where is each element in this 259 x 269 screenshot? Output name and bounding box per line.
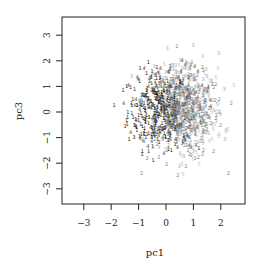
data-point: 5 [232,82,235,88]
data-point: 2 [141,136,144,142]
data-point: 2 [201,64,204,70]
data-point: 3 [130,73,133,79]
data-point: 5 [163,61,166,67]
data-point: 3 [210,77,213,83]
data-point: 1 [170,147,173,153]
data-point: 5 [182,171,185,177]
data-point: 3 [169,90,172,96]
data-point: 3 [223,136,226,142]
data-point: 3 [166,45,169,51]
data-point: 1 [130,110,133,116]
data-point: 4 [168,131,171,137]
data-point: 1 [143,116,146,122]
data-point: 5 [216,108,219,114]
data-point: 3 [223,86,226,92]
data-point: 1 [183,101,186,107]
data-point: 1 [164,124,167,130]
data-point: 4 [150,105,153,111]
y-tick-label: 1 [42,84,52,90]
data-point: 2 [227,170,230,176]
data-point: 2 [187,147,190,153]
data-point: 3 [172,66,175,72]
data-point: 5 [171,99,174,105]
data-point: 2 [212,148,215,154]
x-tick-label: −1 [132,218,145,228]
x-tick-label: 2 [218,218,224,228]
data-point: 1 [146,95,149,101]
data-point: 3 [153,63,156,69]
data-point: 2 [197,154,200,160]
data-point: 4 [168,66,171,72]
data-point: 5 [194,113,197,119]
data-point: 5 [214,74,217,80]
data-point: 2 [155,141,158,147]
scatter-chart: 5353233234551243414234413554141112343433… [0,0,259,269]
data-point: 4 [167,119,170,125]
x-tick-label: −3 [77,218,91,228]
data-point: 5 [197,161,200,167]
data-point: 5 [218,131,221,137]
data-point: 1 [131,96,134,102]
data-point: 2 [201,129,204,135]
x-tick-label: −2 [105,218,118,228]
data-point: 3 [176,119,179,125]
data-point: 1 [157,113,160,119]
y-tick-label: 3 [42,32,52,38]
data-point: 1 [167,113,170,119]
data-point: 1 [126,114,129,120]
data-point: 5 [186,138,189,144]
data-point: 5 [193,123,196,129]
data-point: 2 [191,98,194,104]
y-axis: −3−2−10123 [42,32,62,195]
data-point: 2 [146,155,149,161]
data-point: 5 [179,150,182,156]
data-point: 1 [113,102,116,108]
data-point: 1 [126,109,129,115]
data-point: 5 [217,65,220,71]
data-point: 2 [176,172,179,178]
data-point: 4 [154,71,157,77]
data-point: 4 [122,100,125,106]
x-axis-title: pc1 [146,247,164,258]
data-point: 4 [142,65,145,71]
data-point: 2 [167,142,170,148]
data-point: 3 [181,86,184,92]
data-point: 3 [217,50,220,56]
data-point: 3 [171,79,174,85]
data-point: 2 [175,136,178,142]
data-point: 5 [191,85,194,91]
data-point: 1 [130,102,133,108]
data-point: 1 [139,65,142,71]
data-point: 3 [186,60,189,66]
y-axis-title: pc3 [13,102,24,120]
data-point: 2 [140,170,143,176]
data-point: 3 [156,127,159,133]
y-tick-label: −2 [42,157,52,170]
data-point: 3 [188,66,191,72]
data-point: 5 [196,97,199,103]
y-tick-label: −3 [42,182,52,196]
y-tick-label: −1 [42,131,52,144]
data-point: 3 [151,144,154,150]
y-tick-label: 2 [42,58,52,64]
x-tick-label: 0 [163,218,169,228]
data-point: 4 [193,63,196,69]
data-point: 1 [150,124,153,130]
data-points: 5353233234551243414234413554141112343433… [113,42,236,178]
data-point: 5 [180,161,183,167]
data-point: 1 [134,116,137,122]
data-point: 4 [137,76,140,82]
data-point: 4 [173,107,176,113]
data-point: 2 [205,111,208,117]
data-point: 1 [155,90,158,96]
data-point: 1 [154,120,157,126]
data-point: 5 [211,136,214,142]
data-point: 2 [175,43,178,49]
data-point: 5 [185,113,188,119]
data-point: 2 [157,154,160,160]
data-point: 1 [166,78,169,84]
data-point: 3 [181,74,184,80]
data-point: 3 [162,136,165,142]
data-point: 4 [127,82,130,88]
data-point: 5 [191,156,194,162]
